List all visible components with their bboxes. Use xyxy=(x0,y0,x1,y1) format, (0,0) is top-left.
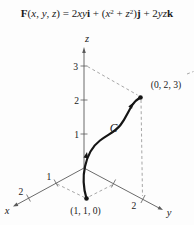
end-point-dot xyxy=(138,95,143,100)
start-point-label: (1, 1, 0) xyxy=(70,205,100,217)
dashed-line-startpoint-to-y1 xyxy=(90,185,113,197)
z-tick-label-2: 2 xyxy=(74,95,79,106)
curve-c-label: C xyxy=(110,122,118,134)
y-axis-label: y xyxy=(166,207,172,218)
x-axis-label: x xyxy=(4,205,10,216)
dashed-line-x1-to-startpoint xyxy=(57,184,85,198)
dashed-line-z3-to-endpoint xyxy=(88,67,138,96)
y-tick-label-2: 2 xyxy=(132,200,137,211)
dashed-line-endpoint-to-y2 xyxy=(141,100,143,196)
z-axis-label: z xyxy=(84,33,89,44)
y-axis-arrowhead-icon xyxy=(158,206,163,210)
x-axis-arrowhead-icon xyxy=(13,203,18,207)
figure: F(x, y, z) = 2xyi + (x2 + z2)j + 2yzk z … xyxy=(0,0,194,225)
curve-direction-arrow-upper-icon xyxy=(128,103,133,109)
dashed-fragment-right-edge xyxy=(187,72,194,75)
z-tick-label-3: 3 xyxy=(73,61,78,72)
coordinate-diagram: z y x 1 2 3 1 2 2 C (1, 1, 0) (0, 2, 3) xyxy=(0,0,194,225)
x-tick-label-1: 1 xyxy=(47,171,52,182)
y-axis-line xyxy=(84,168,159,208)
x-tick-label-2: 2 xyxy=(19,186,24,197)
end-point-label: (0, 2, 3) xyxy=(151,79,181,91)
z-tick-label-1: 1 xyxy=(74,129,79,140)
z-axis-arrowhead-icon xyxy=(82,47,86,53)
start-point-dot xyxy=(84,196,89,201)
y-tick-1 xyxy=(111,180,115,188)
